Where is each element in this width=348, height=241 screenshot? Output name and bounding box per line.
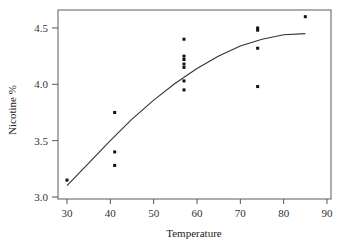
data-point xyxy=(182,63,185,66)
data-point xyxy=(182,79,185,82)
data-point xyxy=(66,179,69,182)
x-tick-label: 50 xyxy=(148,207,160,219)
data-point xyxy=(182,58,185,61)
data-point xyxy=(182,66,185,69)
y-tick-label: 4.0 xyxy=(34,78,48,90)
x-axis-title: Temperature xyxy=(166,227,222,239)
data-point xyxy=(182,55,185,58)
y-axis-title: Nicotine % xyxy=(6,85,18,135)
x-tick-label: 70 xyxy=(235,207,247,219)
data-point xyxy=(182,38,185,41)
fitted-curve xyxy=(67,34,305,186)
y-axis: 3.03.54.04.5 xyxy=(34,22,58,203)
plot-frame xyxy=(58,10,331,199)
data-point xyxy=(304,15,307,18)
data-point xyxy=(256,29,259,32)
x-tick-label: 40 xyxy=(105,207,117,219)
data-point xyxy=(113,150,116,153)
data-points xyxy=(66,15,307,181)
x-tick-label: 30 xyxy=(62,207,74,219)
data-point xyxy=(256,85,259,88)
x-axis: 30405060708090 xyxy=(62,199,333,219)
data-point xyxy=(113,111,116,114)
y-tick-label: 3.0 xyxy=(34,191,48,203)
data-point xyxy=(113,164,116,167)
scatter-chart: 3.03.54.04.5 30405060708090 Temperature … xyxy=(0,0,348,241)
data-point xyxy=(182,88,185,91)
x-tick-label: 80 xyxy=(278,207,290,219)
y-tick-label: 4.5 xyxy=(34,22,48,34)
data-point xyxy=(256,47,259,50)
x-tick-label: 90 xyxy=(321,207,333,219)
y-tick-label: 3.5 xyxy=(34,135,48,147)
x-tick-label: 60 xyxy=(191,207,203,219)
